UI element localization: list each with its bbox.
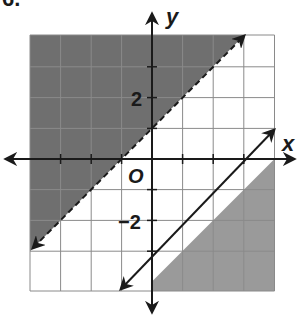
problem-number: 6.: [2, 0, 20, 12]
y-axis-label: y: [165, 4, 180, 29]
x-axis-label: x: [281, 131, 295, 156]
y-tick-label-2: 2: [131, 88, 142, 110]
graph-figure: 6.: [0, 0, 307, 324]
origin-label: O: [128, 165, 144, 187]
y-tick-label-neg2: −2: [118, 211, 141, 233]
coordinate-plane: y x O 2 −2: [0, 0, 307, 324]
